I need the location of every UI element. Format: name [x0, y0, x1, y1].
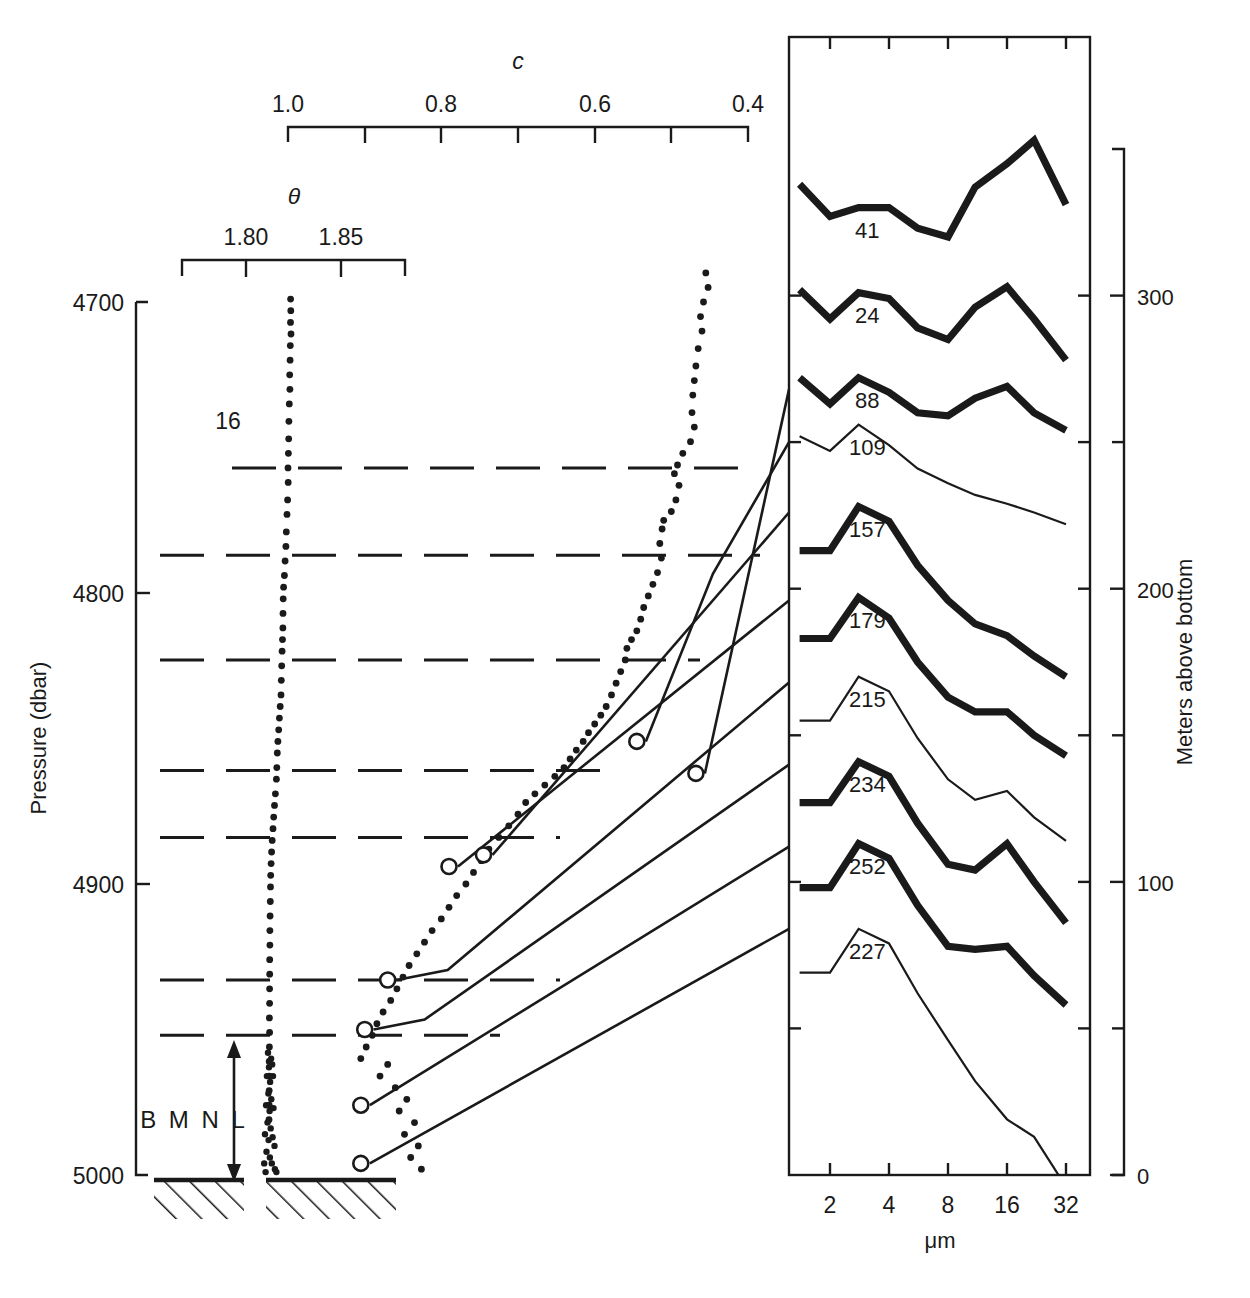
c-profile-point — [384, 1061, 391, 1068]
spectra-panel: 412488109157179215234252227 2481632 μm — [789, 37, 1090, 1253]
sample-marker-227[interactable] — [353, 1156, 368, 1171]
theta-profile-point-bmnl — [270, 1105, 276, 1111]
sample-marker-252[interactable] — [353, 1098, 368, 1113]
spectrum-curve-157 — [800, 507, 1066, 677]
mab-axis-line — [1112, 149, 1124, 1175]
c-profile-point — [697, 313, 704, 320]
theta-profile-point — [285, 465, 292, 472]
seafloor-right-hatch — [266, 1181, 396, 1219]
c-profile-point — [532, 790, 539, 797]
sample-marker-215[interactable] — [380, 973, 395, 988]
theta-profile-point-bmnl — [271, 1143, 277, 1149]
sample-marker-157[interactable] — [476, 847, 491, 862]
theta-profile-point — [267, 898, 274, 905]
spectra-x-axis-title: μm — [924, 1228, 955, 1253]
c-profile-point — [453, 892, 460, 899]
theta-profile-point — [267, 927, 274, 934]
c-profile-point — [446, 904, 453, 911]
sample-connector-252 — [370, 847, 789, 1105]
spectrum-label-41: 41 — [855, 218, 879, 243]
c-profile-point — [357, 1055, 364, 1062]
pressure-axis-line — [136, 302, 148, 1175]
sample-connector-234 — [374, 765, 789, 1030]
theta-profile-point — [287, 357, 294, 364]
c-profile-point — [658, 555, 665, 562]
spectra-x-tick-labels: 2481632 — [824, 1192, 1079, 1218]
c-profile-point — [403, 1096, 410, 1103]
c-profile-point — [608, 692, 615, 699]
spectrum-label-215: 215 — [849, 687, 886, 712]
c-profile-point — [659, 526, 666, 533]
c-profile-point — [645, 593, 652, 600]
c-profile-point — [374, 1020, 381, 1027]
c-profile-point — [656, 540, 663, 547]
spectrum-curve-88 — [800, 378, 1066, 431]
theta-profile-point-bmnl — [262, 1169, 268, 1175]
sample-marker-109[interactable] — [629, 734, 644, 749]
theta-profile-point — [287, 319, 294, 326]
c-profile-point — [580, 738, 587, 745]
theta-profile-point — [266, 1029, 273, 1036]
spectrum-label-179: 179 — [849, 608, 886, 633]
c-profile-point — [470, 869, 477, 876]
c-profile-point — [541, 782, 548, 789]
c-profile-point — [421, 939, 428, 946]
c-profile-point — [522, 799, 529, 806]
sample-connector-179 — [458, 600, 789, 866]
c-profile-point — [693, 363, 700, 370]
bmnl-label: B M N L — [140, 1106, 248, 1133]
c-profile-point — [429, 927, 436, 934]
seafloor-left — [154, 1180, 244, 1219]
c-profile-point — [689, 409, 696, 416]
c-profile-point — [415, 1143, 422, 1150]
theta-profile-point — [284, 497, 291, 504]
c-profile-point — [633, 627, 640, 634]
c-profile-point — [660, 517, 667, 524]
sample-marker-179[interactable] — [442, 859, 457, 874]
theta-profile-point — [267, 884, 274, 891]
spectra-x-tick-label-2: 2 — [824, 1192, 837, 1218]
sample-marker-234[interactable] — [357, 1022, 372, 1037]
c-profile-point — [671, 470, 678, 477]
theta-profile-point — [275, 738, 282, 745]
spectrum-curve-109 — [800, 425, 1066, 525]
sample-marker-88[interactable] — [688, 766, 703, 781]
pressure-tick-label-5000: 5000 — [73, 1163, 124, 1189]
theta-profile-point — [267, 913, 274, 920]
seafloor-right — [266, 1180, 396, 1219]
bmnl-arrow-head-up — [227, 1040, 241, 1058]
c-profile-point — [673, 497, 680, 504]
spectrum-curve-24 — [800, 287, 1066, 360]
theta-profile-point — [270, 814, 277, 821]
theta-profile-point — [286, 418, 293, 425]
theta-profile-point-bmnl — [262, 1131, 268, 1137]
c-profile-point — [418, 1166, 425, 1173]
spectra-curves — [800, 140, 1066, 1187]
sample-connector-215 — [397, 683, 789, 981]
spectrum-label-157: 157 — [849, 517, 886, 542]
c-profile-point — [668, 508, 675, 515]
mab-tick-label-300: 300 — [1137, 285, 1174, 310]
spectrum-curve-215 — [800, 677, 1066, 841]
theta-profile-point-bmnl — [269, 1134, 275, 1140]
theta-profile-point-bmnl — [267, 1079, 273, 1085]
c-profile-point — [650, 581, 657, 588]
pressure-axis: 4700 4800 4900 5000 Pressure (dbar) — [26, 290, 150, 1189]
theta-profile-point — [268, 860, 275, 867]
theta-profile-point — [266, 1000, 273, 1007]
theta-profile-point-bmnl — [265, 1050, 271, 1056]
theta-profile-point — [278, 677, 285, 684]
c-profile-point — [676, 482, 683, 489]
pressure-axis-title: Pressure (dbar) — [26, 662, 51, 815]
c-profile-point — [380, 1009, 387, 1016]
theta-profile-point — [266, 971, 273, 978]
c-profile-point — [363, 1044, 370, 1051]
theta-profile-point — [266, 985, 273, 992]
c-profile-dots — [357, 270, 711, 1173]
c-tick-label-0-4: 0.4 — [732, 91, 764, 117]
theta-axis-title: θ — [288, 183, 301, 209]
c-tick-label-0-8: 0.8 — [425, 91, 457, 117]
c-profile-point — [628, 636, 635, 643]
c-profile-point — [613, 680, 620, 687]
c-profile-point — [689, 392, 696, 399]
